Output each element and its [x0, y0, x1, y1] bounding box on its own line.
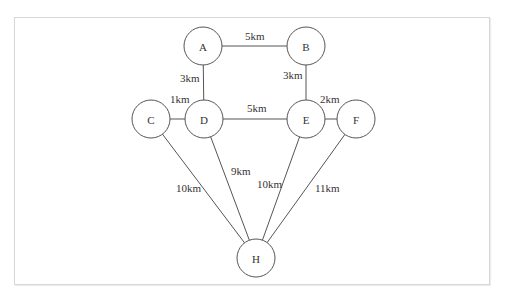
node-h: H [237, 239, 275, 277]
node-f: F [337, 100, 375, 138]
edge-label-e-f: 2km [320, 93, 340, 105]
node-label: D [200, 114, 208, 126]
node-label: A [199, 41, 207, 53]
node-e: E [287, 100, 325, 138]
node-label: H [252, 253, 260, 265]
edge-label-b-e: 3km [283, 69, 303, 81]
graph-canvas: 5km3km3km1km5km2km10km9km10km11km ABCDEF… [0, 0, 507, 305]
edge-d-h [204, 119, 256, 258]
edge-label-f-h: 11km [315, 182, 340, 194]
node-label: B [302, 41, 309, 53]
node-label: E [303, 114, 310, 126]
edge-label-d-e: 5km [247, 102, 267, 114]
edge-label-c-h: 10km [176, 182, 202, 194]
edge-c-h [151, 119, 256, 258]
node-b: B [287, 27, 325, 65]
edge-label-a-d: 3km [180, 72, 200, 84]
node-c: C [132, 100, 170, 138]
nodes-layer: ABCDEFH [132, 27, 375, 277]
edge-label-a-b: 5km [245, 30, 265, 42]
node-label: C [147, 114, 154, 126]
node-a: A [184, 27, 222, 65]
edge-label-e-h: 10km [257, 178, 283, 190]
node-label: F [353, 114, 359, 126]
node-d: D [185, 100, 223, 138]
edge-label-c-d: 1km [170, 93, 190, 105]
edge-label-d-h: 9km [231, 165, 251, 177]
